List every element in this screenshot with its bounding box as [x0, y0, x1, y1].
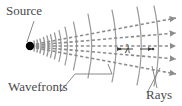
wavelength-label: λ [125, 43, 130, 55]
wavelength-endpoint-left [119, 48, 122, 51]
wavefront-ray-diagram: Source Wavefronts Rays λ [0, 0, 182, 106]
ray-line [36, 47, 176, 59]
wavefront-arc [40, 39, 41, 53]
ray-line [36, 18, 176, 44]
leader-line-source [27, 21, 34, 42]
wavefronts-label: Wavefronts [8, 80, 68, 93]
wavefront-arc [51, 35, 53, 58]
ray-line [36, 48, 176, 74]
source-label: Source [6, 4, 42, 17]
rays-label: Rays [146, 88, 172, 101]
ray-line [36, 33, 176, 45]
wavelength-endpoint-right [152, 48, 155, 51]
leader-line-wavefronts [60, 64, 112, 92]
source-dot [26, 42, 34, 50]
